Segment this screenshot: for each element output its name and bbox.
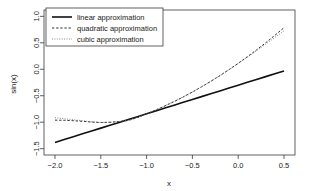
x-tick-label: −2.0: [48, 161, 63, 170]
legend-label: linear approximation: [77, 13, 145, 22]
x-tick-label: −1.5: [93, 161, 108, 170]
x-tick-label: 0.0: [233, 161, 243, 170]
y-tick-label: −1.0: [32, 115, 41, 130]
x-axis-tick-labels: −2.0−1.5−1.0−0.50.00.5: [48, 161, 290, 170]
y-axis-tick-labels: −1.5−1.0−0.50.00.51.0: [32, 11, 41, 156]
series-solid: [55, 71, 284, 143]
x-axis-ticks: [55, 155, 284, 159]
y-axis-title: sin(x): [9, 74, 18, 94]
y-tick-label: 1.0: [32, 11, 41, 21]
y-tick-label: 0.0: [32, 64, 41, 74]
y-tick-label: −1.5: [32, 141, 41, 156]
x-tick-label: 0.5: [279, 161, 289, 170]
legend-label: cubic approximation: [77, 35, 144, 44]
chart-figure: −2.0−1.5−1.0−0.50.00.5 −1.5−1.0−0.50.00.…: [0, 0, 309, 191]
chart-legend: linear approximationquadratic approximat…: [46, 8, 163, 46]
x-tick-label: −0.5: [185, 161, 200, 170]
x-tick-label: −1.0: [139, 161, 154, 170]
legend-label: quadratic approximation: [77, 24, 157, 33]
taylor-approximation-plot: −2.0−1.5−1.0−0.50.00.5 −1.5−1.0−0.50.00.…: [0, 0, 309, 191]
x-axis-title: x: [167, 179, 171, 188]
y-tick-label: 0.5: [32, 38, 41, 48]
y-tick-label: −0.5: [32, 88, 41, 103]
